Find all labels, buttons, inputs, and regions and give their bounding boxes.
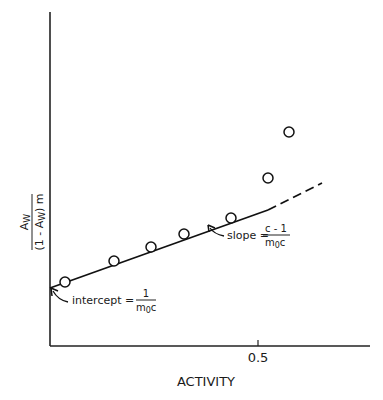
intercept-den-tail: c — [151, 302, 157, 313]
data-point — [226, 213, 236, 223]
fit-line-dashed — [268, 183, 322, 210]
slope-numerator: c - 1 — [265, 223, 287, 234]
svg-text:m0c: m0c — [136, 302, 156, 315]
intercept-annotation: intercept = 1 m0c — [51, 288, 156, 315]
data-points — [60, 127, 294, 287]
y-axis-label: AW (1 - AW) m — [18, 193, 47, 250]
slope-den: m — [265, 237, 275, 248]
data-point — [109, 256, 119, 266]
data-point — [284, 127, 294, 137]
x-tick-label-0.5: 0.5 — [248, 350, 269, 365]
y-label-denominator-sub: W — [37, 212, 47, 221]
y-label-denominator: (1 - A — [33, 220, 46, 250]
svg-text:(1 - AW) m: (1 - AW) m — [33, 193, 47, 250]
intercept-arrow-icon — [53, 291, 68, 302]
slope-den-tail: c — [280, 237, 286, 248]
y-label-denominator-tail: ) m — [33, 193, 46, 212]
data-point — [60, 277, 70, 287]
x-axis-label: ACTIVITY — [177, 374, 235, 389]
svg-text:m0c: m0c — [265, 237, 285, 250]
intercept-label: intercept = — [72, 294, 134, 307]
data-point — [263, 173, 273, 183]
intercept-arrowhead-icon — [51, 288, 58, 296]
data-point — [179, 229, 189, 239]
intercept-den: m — [136, 302, 146, 313]
activity-chart: 0.5 ACTIVITY AW (1 - AW) m intercept = 1… — [0, 0, 383, 400]
slope-label: slope = — [227, 229, 269, 242]
intercept-numerator: 1 — [143, 288, 149, 299]
svg-text:AW: AW — [18, 214, 32, 231]
data-point — [146, 242, 156, 252]
y-label-numerator-sub: W — [22, 214, 32, 223]
